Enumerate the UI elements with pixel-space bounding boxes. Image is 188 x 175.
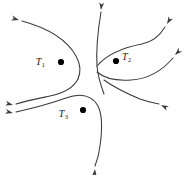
node-t3: T3 (59, 107, 86, 121)
node-t1: T1 (36, 56, 64, 68)
node-label-t2: T2 (122, 51, 131, 63)
node-dot-t3 (80, 107, 86, 113)
field-curve (16, 95, 102, 166)
node-label-subscript: 2 (128, 56, 131, 63)
node-t2: T2 (113, 51, 131, 64)
field-curve (104, 80, 159, 104)
node-label-t3: T3 (59, 108, 68, 120)
node-label-subscript: 1 (42, 61, 45, 68)
arrow-mid-right-icon (173, 48, 182, 57)
arrow-top-right-icon (165, 16, 173, 25)
vector-field-diagram: T1T2T3 (0, 0, 188, 175)
arrow-lower-left-icon (5, 109, 13, 115)
arrow-layer (5, 2, 182, 175)
curve-layer (16, 12, 173, 166)
node-label-subscript: 3 (65, 113, 68, 120)
field-curve (22, 21, 80, 79)
node-layer: T1T2T3 (36, 51, 131, 120)
arrow-upper-left-icon (11, 16, 20, 23)
node-label-t1: T1 (36, 56, 45, 68)
arrow-lower-right-icon (160, 103, 169, 111)
field-curve (97, 12, 104, 94)
node-dot-t2 (113, 58, 119, 64)
arrow-mid-left-icon (5, 101, 14, 108)
node-dot-t1 (58, 59, 64, 65)
arrow-top-center-icon (99, 2, 105, 10)
field-curve (97, 58, 173, 80)
diagram-canvas: T1T2T3 (0, 0, 188, 175)
arrow-bottom-center-icon (92, 169, 98, 175)
field-curve (16, 79, 78, 104)
